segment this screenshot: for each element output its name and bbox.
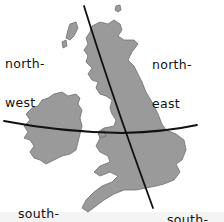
label-north-east-line2: east: [152, 97, 192, 110]
label-south-west-line1: south-: [18, 207, 59, 220]
label-north-west-line1: north-: [5, 57, 45, 70]
label-south-west: south- west: [18, 181, 59, 222]
orkney-island: [115, 5, 121, 12]
outer-hebrides-island: [66, 22, 78, 40]
label-south-east: south- east: [167, 187, 208, 222]
label-north-west: north- west: [5, 31, 45, 135]
anglesey-island: [98, 130, 106, 138]
diagram-canvas: north- west north- east south- west sout…: [0, 0, 224, 222]
label-north-east: north- east: [152, 32, 192, 136]
label-north-west-line2: west: [5, 96, 45, 109]
small-island: [62, 40, 67, 48]
label-south-east-line1: south-: [167, 213, 208, 222]
label-north-east-line1: north-: [152, 58, 192, 71]
